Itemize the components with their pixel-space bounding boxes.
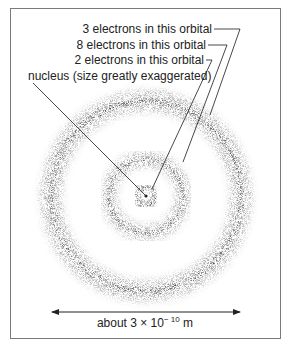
label-3-electrons: 3 electrons in this orbital <box>83 22 212 36</box>
scale-label: about 3 × 10− 10 m <box>0 315 290 330</box>
label-nucleus: nucleus (size greatly exaggerated) <box>28 69 211 83</box>
scale-exponent: − 10 <box>164 315 180 324</box>
scale-unit: m <box>183 316 193 330</box>
label-2-electrons: 2 electrons in this orbital <box>75 53 204 67</box>
label-8-electrons: 8 electrons in this orbital <box>77 38 206 52</box>
scale-prefix: about 3 × 10 <box>97 316 164 330</box>
